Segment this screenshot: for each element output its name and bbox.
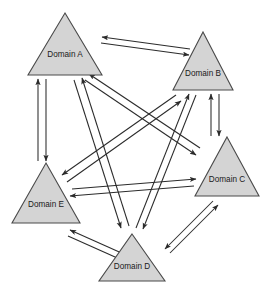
arrow-a-to-d (74, 80, 121, 228)
node-label-d: Domain D (114, 262, 150, 271)
arrow-a-to-b (101, 43, 189, 55)
node-e[interactable]: Domain E (12, 163, 80, 223)
triangle-c[interactable] (195, 137, 259, 196)
edge-a-b (101, 37, 190, 55)
node-layer: Domain ADomain BDomain CDomain DDomain E (12, 13, 259, 281)
edge-a-e (38, 79, 46, 161)
edge-b-c (211, 94, 219, 136)
arrow-b-to-a (102, 37, 190, 49)
node-label-e: Domain E (28, 200, 64, 209)
triangle-d[interactable] (99, 234, 165, 281)
edge-d-c (165, 201, 218, 253)
node-d[interactable]: Domain D (99, 234, 165, 281)
domain-interaction-diagram: Domain ADomain BDomain CDomain DDomain E (0, 0, 272, 293)
arrow-d-to-e (70, 230, 126, 255)
node-label-c: Domain C (209, 175, 245, 184)
domain-diagram-canvas: Domain ADomain BDomain CDomain DDomain E (0, 0, 272, 293)
triangle-e[interactable] (12, 163, 80, 223)
arrow-c-to-d (165, 201, 213, 249)
edge-b-e (62, 95, 181, 182)
node-b[interactable]: Domain B (173, 32, 233, 90)
arrow-b-to-e (62, 95, 176, 175)
edge-c-e (70, 179, 196, 196)
node-label-b: Domain B (185, 69, 221, 78)
edge-b-d (136, 94, 196, 229)
arrow-d-to-a (82, 78, 129, 226)
triangle-b[interactable] (173, 32, 233, 90)
node-a[interactable]: Domain A (28, 13, 102, 75)
node-label-a: Domain A (47, 50, 83, 59)
arrow-d-to-c (170, 205, 218, 253)
triangle-a[interactable] (28, 13, 102, 75)
edge-a-d (74, 78, 129, 228)
node-c[interactable]: Domain C (195, 137, 259, 196)
